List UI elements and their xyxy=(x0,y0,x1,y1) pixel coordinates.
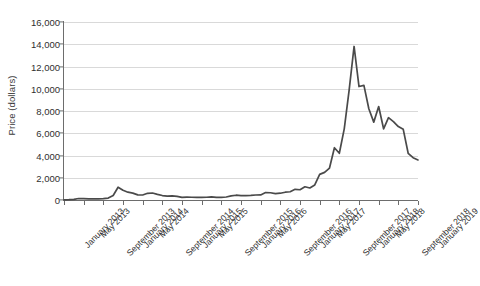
x-axis-tick-mark xyxy=(143,201,144,205)
x-axis-tick-mark xyxy=(162,201,163,205)
price-series-line xyxy=(64,46,418,199)
x-axis-tick-mark xyxy=(202,201,203,205)
x-axis-tick-label: January 2019 xyxy=(436,206,480,250)
x-axis-tick-mark xyxy=(123,201,124,205)
x-axis-tick-mark xyxy=(261,201,262,205)
y-axis-tick-mark xyxy=(59,177,63,178)
x-axis-tick-mark xyxy=(182,201,183,205)
y-axis-tick-mark xyxy=(59,21,63,22)
x-axis-tick-mark xyxy=(221,201,222,205)
x-axis-tick-mark xyxy=(379,201,380,205)
y-axis-tick-mark xyxy=(59,133,63,134)
y-axis-tick-mark xyxy=(59,44,63,45)
x-axis-tick-mark xyxy=(280,201,281,205)
x-axis-tick-mark xyxy=(339,201,340,205)
x-axis-tick-mark xyxy=(84,201,85,205)
x-axis-tick-mark xyxy=(359,201,360,205)
y-axis-tick-mark xyxy=(59,199,63,200)
y-axis-tick-mark xyxy=(59,110,63,111)
y-axis-tick-mark xyxy=(59,66,63,67)
y-axis-tick-mark xyxy=(59,155,63,156)
x-axis-tick-mark xyxy=(418,201,419,205)
x-axis-tick-mark xyxy=(64,201,65,205)
y-axis-tick-mark xyxy=(59,88,63,89)
x-axis-tick-mark xyxy=(398,201,399,205)
x-axis-tick-mark xyxy=(300,201,301,205)
x-axis-tick-mark xyxy=(241,201,242,205)
x-axis-tick-mark xyxy=(103,201,104,205)
x-axis-tick-mark xyxy=(320,201,321,205)
